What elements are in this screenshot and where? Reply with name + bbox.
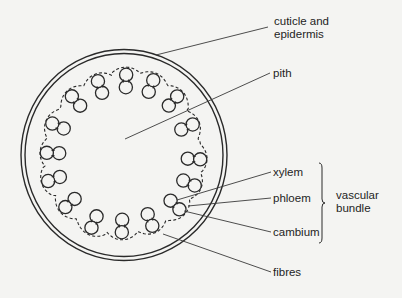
vascular-bundle-label: vascular [336, 189, 379, 201]
xylem-label: xylem [273, 166, 303, 178]
xylem-circle [181, 152, 194, 165]
vascular-bundle [115, 213, 129, 239]
xylem-circle [116, 213, 129, 226]
fibres-leader-line [163, 234, 271, 272]
cuticle-label: epidermis [274, 28, 324, 40]
cuticle-leader-line [156, 27, 268, 55]
vascular-bundle [175, 118, 200, 136]
vascular-bundle [177, 174, 202, 192]
fibres-label: fibres [273, 266, 301, 278]
xylem-circle [53, 147, 66, 160]
phloem-circle [59, 201, 72, 214]
phloem-circle [173, 203, 186, 216]
vascular-bundle [141, 208, 159, 233]
pith-label: pith [273, 67, 292, 79]
vascular-bundle [91, 75, 108, 100]
vascular-bundle [181, 152, 207, 166]
phloem-circle [115, 226, 128, 239]
cambium-label: cambium [273, 226, 320, 238]
vascular-bundle-label: bundle [336, 202, 371, 214]
label-leader-lines [125, 27, 271, 272]
vascular-bundle [42, 170, 67, 187]
vascular-bundle [59, 192, 81, 213]
vascular-bundle [46, 117, 71, 135]
vascular-bundle-brace: vascularbundle [319, 163, 379, 243]
phloem-circle [65, 90, 78, 103]
phloem-circle [194, 153, 207, 166]
vascular-bundle [142, 74, 160, 99]
xylem-circle [119, 81, 132, 94]
curly-brace [319, 163, 325, 243]
cuticle-label: cuticle and [274, 15, 329, 27]
vascular-bundle [40, 146, 66, 160]
stem-cross-section-diagram: cuticle andepidermispithxylemphloemcambi… [0, 0, 402, 298]
phloem-circle [40, 146, 53, 159]
phloem-label: phloem [273, 192, 311, 204]
phloem-circle [171, 90, 184, 103]
phloem-circle [120, 68, 133, 81]
labels: cuticle andepidermispithxylemphloemcambi… [273, 15, 329, 278]
vascular-bundle [119, 68, 133, 94]
vascular-bundle [164, 194, 186, 216]
vascular-bundles [40, 68, 207, 239]
vascular-bundle [65, 90, 86, 112]
vascular-bundle [85, 210, 103, 235]
phloem-leader-line [188, 198, 271, 206]
vascular-bundle [162, 90, 184, 112]
